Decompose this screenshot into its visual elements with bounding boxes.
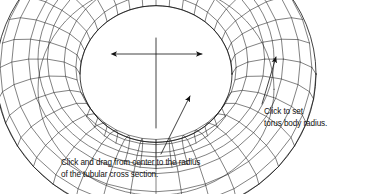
callout-tube-radius-line1: Click and drag from center to the radius: [61, 157, 200, 169]
callout-tubular-cross-section: Click and drag from center to the radius…: [61, 157, 200, 180]
callout-body-radius-line2: torus body radius.: [264, 118, 327, 130]
torus-diagram-figure: Click to set torus body radius. Click an…: [0, 0, 365, 194]
leader-line-tube-radius: [161, 96, 190, 154]
callout-tube-radius-line2: of the tubular cross section.: [61, 169, 200, 181]
annotation-lines: [116, 38, 276, 154]
callout-body-radius-line1: Click to set: [264, 106, 327, 118]
callout-torus-body-radius: Click to set torus body radius.: [264, 106, 327, 129]
